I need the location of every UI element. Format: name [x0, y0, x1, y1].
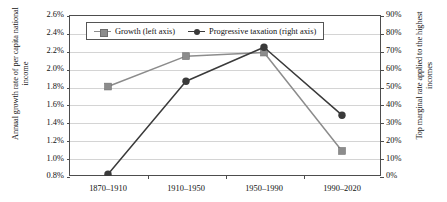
x-axis-tick: 1950–1990: [245, 184, 283, 193]
x-axis-tick: 1990–2020: [323, 184, 361, 193]
chart-figure: Annual growth rate of per capita nationa…: [0, 0, 447, 202]
data-point-marker[interactable]: [338, 111, 345, 118]
data-point-marker[interactable]: [182, 77, 189, 84]
data-point-marker[interactable]: [105, 83, 112, 90]
square-marker-icon: [100, 29, 108, 37]
data-point-marker[interactable]: [260, 44, 267, 51]
legend-item-progressive-taxation[interactable]: Progressive taxation (right axis): [188, 27, 316, 36]
legend-label-taxation: Progressive taxation (right axis): [209, 27, 316, 36]
chart-legend: Growth (left axis) Progressive taxation …: [86, 22, 324, 40]
legend-label-growth: Growth (left axis): [115, 27, 175, 36]
data-point-marker[interactable]: [339, 148, 346, 155]
series-line-growth: [108, 53, 342, 151]
x-axis-tick: 1870–1910: [89, 184, 127, 193]
x-axis-tick: 1910–1950: [167, 184, 205, 193]
taxation-line-swatch-icon: [188, 28, 205, 35]
data-point-marker[interactable]: [183, 53, 190, 60]
legend-item-growth[interactable]: Growth (left axis): [94, 27, 175, 36]
growth-line-swatch-icon: [94, 28, 111, 35]
circle-marker-icon: [194, 29, 201, 36]
series-line-taxation: [108, 47, 342, 174]
